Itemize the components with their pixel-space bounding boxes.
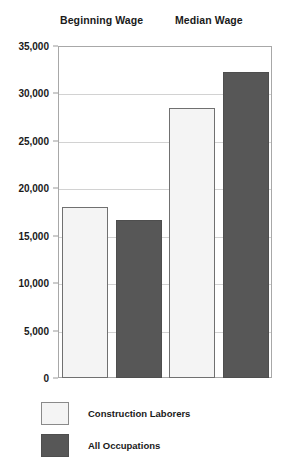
y-axis: 05,00010,00015,00020,00025,00030,00035,0…	[0, 46, 58, 378]
legend-label-all-occupations: All Occupations	[88, 440, 160, 451]
bars-layer	[58, 46, 272, 378]
legend-item-construction-laborers: Construction Laborers	[41, 402, 271, 434]
legend-swatch-all-occupations	[41, 434, 69, 457]
group-heading-median-wage: Median Wage	[175, 14, 243, 26]
legend-label-construction-laborers: Construction Laborers	[88, 408, 190, 419]
y-axis-tick-label: 0	[43, 373, 49, 384]
y-axis-tick-label: 15,000	[18, 230, 49, 241]
legend-swatch-construction-laborers	[41, 402, 69, 425]
bar-construction-laborers-median-wage	[169, 108, 215, 378]
group-headings: Beginning Wage Median Wage	[58, 14, 272, 34]
bar-all-occupations-median-wage	[223, 72, 269, 378]
group-heading-beginning-wage: Beginning Wage	[60, 14, 143, 26]
bar-construction-laborers-beginning-wage	[62, 207, 108, 378]
bar-all-occupations-beginning-wage	[116, 220, 162, 378]
y-axis-tick-label: 5,000	[24, 325, 49, 336]
y-axis-tick-label: 10,000	[18, 278, 49, 289]
y-axis-tick-label: 35,000	[18, 41, 49, 52]
y-axis-tick-label: 20,000	[18, 183, 49, 194]
y-axis-tick-label: 25,000	[18, 135, 49, 146]
legend-item-all-occupations: All Occupations	[41, 434, 271, 466]
y-axis-tick-label: 30,000	[18, 88, 49, 99]
chart-legend: Construction Laborers All Occupations	[41, 402, 271, 466]
